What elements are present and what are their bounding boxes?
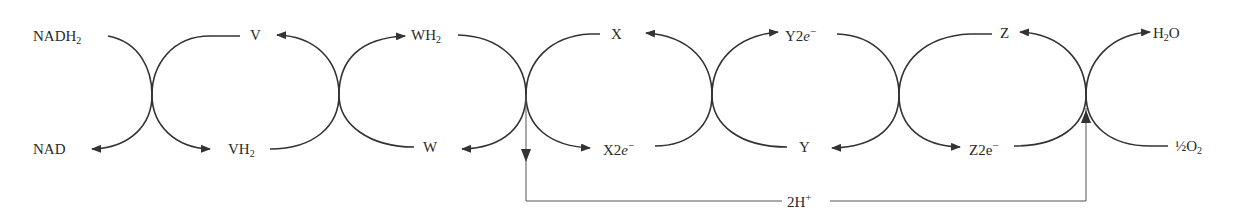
label-z: Z (1000, 26, 1009, 41)
label-nadh2: NADH2 (33, 29, 81, 46)
label-w: W (423, 140, 437, 155)
label-y2e: Y2e− (785, 26, 816, 44)
label-y: Y (799, 140, 810, 155)
label-x: X (611, 27, 622, 42)
label-wh2: WH2 (411, 28, 441, 45)
label-nad: NAD (33, 142, 66, 157)
label-z2e: Z2e− (969, 140, 999, 158)
label-half-o2: ½O2 (1175, 139, 1202, 156)
label-2h-plus: 2H+ (787, 192, 812, 210)
label-v: V (250, 28, 261, 43)
label-h2o: H2O (1153, 26, 1180, 43)
electron-transport-diagram: NADH2 V WH2 X Y2e− Z H2O NAD VH2 W X2e− … (0, 0, 1240, 218)
label-vh2: VH2 (228, 142, 255, 159)
label-x2e: X2e− (603, 140, 634, 158)
